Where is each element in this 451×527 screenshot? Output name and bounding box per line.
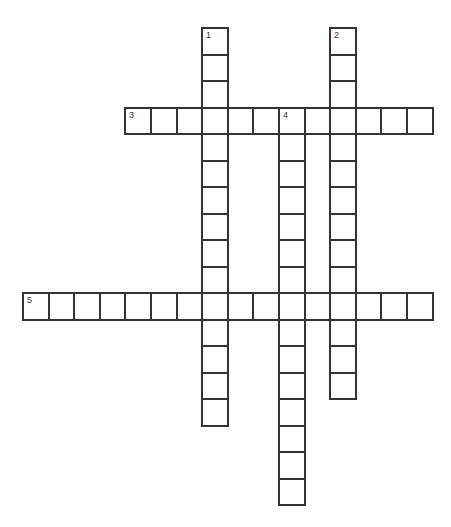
- crossword-cell[interactable]: [380, 107, 408, 135]
- crossword-cell[interactable]: [201, 372, 229, 400]
- crossword-cell[interactable]: [176, 292, 203, 321]
- crossword-cell[interactable]: [329, 133, 357, 162]
- crossword-cell[interactable]: [150, 107, 178, 135]
- crossword-cell[interactable]: [201, 133, 229, 162]
- crossword-cell[interactable]: [406, 292, 434, 321]
- crossword-cell[interactable]: [278, 292, 306, 321]
- crossword-cell[interactable]: [48, 292, 75, 321]
- crossword-cell[interactable]: [329, 345, 357, 374]
- crossword-cell[interactable]: [201, 107, 229, 135]
- crossword-cell[interactable]: [278, 160, 306, 188]
- crossword-cell[interactable]: [99, 292, 126, 321]
- crossword-cell[interactable]: [278, 345, 306, 374]
- crossword-cell[interactable]: [329, 266, 357, 294]
- crossword-cell[interactable]: [201, 398, 229, 427]
- crossword-cell[interactable]: [278, 186, 306, 215]
- crossword-cell[interactable]: [329, 54, 357, 82]
- crossword-cell[interactable]: [176, 107, 203, 135]
- crossword-cell[interactable]: [124, 292, 152, 321]
- crossword-cell[interactable]: [278, 213, 306, 241]
- crossword-cell[interactable]: [329, 160, 357, 188]
- crossword-cell[interactable]: [304, 292, 331, 321]
- crossword-cell[interactable]: 2: [329, 27, 357, 56]
- crossword-cell[interactable]: 1: [201, 27, 229, 56]
- crossword-cell[interactable]: [329, 319, 357, 347]
- crossword-cell[interactable]: [227, 292, 254, 321]
- crossword-cell[interactable]: [278, 451, 306, 480]
- crossword-cell[interactable]: [278, 425, 306, 453]
- crossword-cell[interactable]: [201, 54, 229, 82]
- clue-number: 5: [27, 295, 32, 305]
- crossword-cell[interactable]: [278, 266, 306, 294]
- crossword-cell[interactable]: [278, 133, 306, 162]
- crossword-cell[interactable]: 3: [124, 107, 152, 135]
- crossword-cell[interactable]: [329, 107, 357, 135]
- clue-number: 4: [283, 110, 288, 120]
- crossword-cell[interactable]: [201, 345, 229, 374]
- crossword-cell[interactable]: 5: [22, 292, 50, 321]
- crossword-cell[interactable]: [150, 292, 178, 321]
- crossword-grid: 12345: [0, 0, 451, 527]
- crossword-cell[interactable]: [201, 292, 229, 321]
- crossword-cell[interactable]: [355, 107, 382, 135]
- crossword-cell[interactable]: [278, 478, 306, 506]
- crossword-cell[interactable]: [329, 239, 357, 268]
- crossword-cell[interactable]: [73, 292, 101, 321]
- crossword-cell[interactable]: [201, 80, 229, 109]
- crossword-cell[interactable]: [380, 292, 408, 321]
- crossword-cell[interactable]: [329, 292, 357, 321]
- crossword-cell[interactable]: [304, 107, 331, 135]
- crossword-cell[interactable]: [278, 319, 306, 347]
- crossword-cell[interactable]: [329, 372, 357, 400]
- crossword-cell[interactable]: [252, 292, 280, 321]
- crossword-cell[interactable]: [329, 186, 357, 215]
- crossword-cell[interactable]: [227, 107, 254, 135]
- crossword-cell[interactable]: 4: [278, 107, 306, 135]
- crossword-cell[interactable]: [406, 107, 434, 135]
- crossword-cell[interactable]: [201, 160, 229, 188]
- crossword-cell[interactable]: [252, 107, 280, 135]
- crossword-cell[interactable]: [329, 80, 357, 109]
- crossword-cell[interactable]: [201, 319, 229, 347]
- crossword-cell[interactable]: [278, 372, 306, 400]
- crossword-cell[interactable]: [329, 213, 357, 241]
- crossword-cell[interactable]: [355, 292, 382, 321]
- crossword-cell[interactable]: [201, 266, 229, 294]
- crossword-cell[interactable]: [201, 186, 229, 215]
- crossword-cell[interactable]: [201, 213, 229, 241]
- clue-number: 1: [206, 30, 211, 40]
- crossword-cell[interactable]: [278, 398, 306, 427]
- clue-number: 3: [129, 110, 134, 120]
- clue-number: 2: [334, 30, 339, 40]
- crossword-cell[interactable]: [201, 239, 229, 268]
- crossword-cell[interactable]: [278, 239, 306, 268]
